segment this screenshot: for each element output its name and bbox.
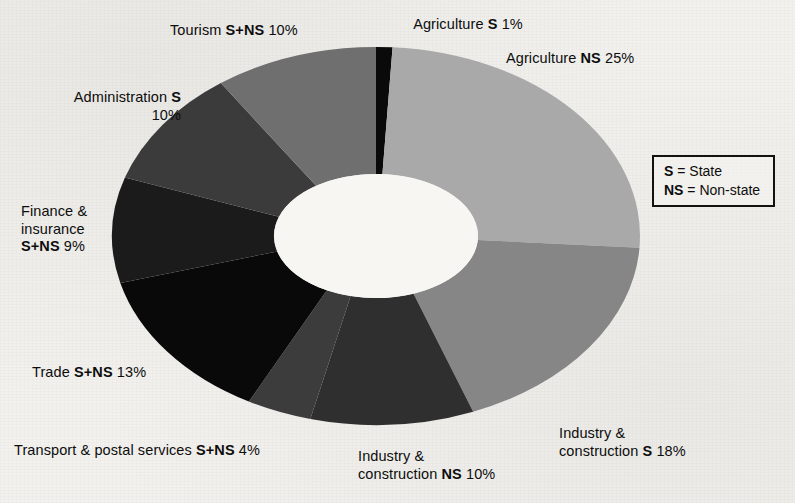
- slice-label-administration: Administration S 10%: [0, 89, 181, 124]
- label-text: Trade: [32, 364, 74, 380]
- legend-sep: =: [683, 182, 699, 198]
- donut-chart: Agriculture S 1% Agriculture NS 25% Indu…: [0, 0, 795, 503]
- label-text: construction: [358, 466, 442, 482]
- slice-label-finance-insurance: Finance & insurance S+NS 9%: [21, 203, 87, 256]
- label-value: 9%: [60, 238, 85, 254]
- label-line-1: Finance &: [21, 203, 87, 221]
- label-line-1: Industry &: [358, 448, 495, 466]
- label-abbr: S+NS: [21, 238, 60, 254]
- label-value: 4%: [235, 442, 260, 458]
- label-text: Administration: [74, 89, 171, 105]
- label-text: Transport & postal services: [14, 442, 196, 458]
- slice-label-tourism: Tourism S+NS 10%: [170, 22, 298, 40]
- slice-label-trade: Trade S+NS 13%: [32, 364, 146, 382]
- legend-abbr-s: S: [664, 163, 673, 179]
- label-line-2: construction NS 10%: [358, 466, 495, 484]
- label-value: 10%: [264, 22, 297, 38]
- label-text: Agriculture: [413, 16, 488, 32]
- label-text: construction: [559, 443, 643, 459]
- label-line-2: insurance: [21, 221, 87, 239]
- label-text: Agriculture: [506, 50, 581, 66]
- label-abbr: S+NS: [74, 364, 113, 380]
- label-abbr: NS: [581, 50, 601, 66]
- legend-box: S = State NS = Non-state: [652, 155, 775, 207]
- label-abbr: S+NS: [226, 22, 265, 38]
- legend-sep: =: [673, 163, 689, 179]
- label-abbr: NS: [442, 466, 462, 482]
- slice-label-agriculture-ns: Agriculture NS 25%: [506, 50, 634, 68]
- legend-abbr-ns: NS: [664, 182, 683, 198]
- label-value: 10%: [462, 466, 495, 482]
- slice-label-agriculture-s: Agriculture S 1%: [368, 16, 568, 34]
- label-abbr: S: [643, 443, 653, 459]
- slice-label-transport-postal-services: Transport & postal services S+NS 4%: [14, 442, 260, 460]
- legend-row-non-state: NS = Non-state: [664, 181, 773, 200]
- label-value: 1%: [498, 16, 523, 32]
- legend-row-state: S = State: [664, 162, 773, 181]
- slice-label-industry-construction-ns: Industry & construction NS 10%: [358, 448, 495, 483]
- label-value: 18%: [652, 443, 685, 459]
- label-value: 25%: [601, 50, 634, 66]
- label-line-1: Administration S: [0, 89, 181, 107]
- label-line-1: Industry &: [559, 425, 686, 443]
- label-line-2: construction S 18%: [559, 443, 686, 461]
- donut-center-hole: [274, 174, 478, 298]
- label-line-2: 10%: [0, 107, 181, 125]
- label-value: 13%: [113, 364, 146, 380]
- legend-meaning-ns: Non-state: [699, 182, 760, 198]
- slice-label-industry-construction-s: Industry & construction S 18%: [559, 425, 686, 460]
- label-abbr: S+NS: [196, 442, 235, 458]
- label-abbr: S: [488, 16, 498, 32]
- label-line-3: S+NS 9%: [21, 238, 87, 256]
- legend-meaning-s: State: [689, 163, 722, 179]
- label-text: Tourism: [170, 22, 226, 38]
- label-abbr: S: [171, 89, 181, 105]
